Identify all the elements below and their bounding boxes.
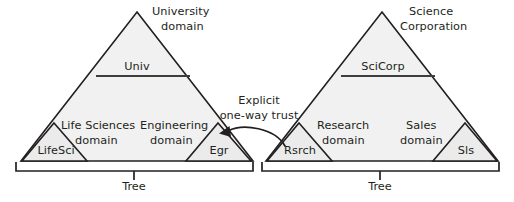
lifesci-domain-label-line2: domain	[75, 134, 118, 149]
lifesci-short-name-label: LifeSci	[37, 144, 74, 159]
science-corporation-label-line1: Science	[409, 5, 453, 20]
sls-short-name-label: Sls	[458, 144, 474, 159]
university-domain-label-line2: domain	[161, 20, 204, 35]
engineering-domain-label-line1: Engineering	[140, 119, 208, 134]
scicorp-short-name-label: SciCorp	[361, 60, 405, 75]
sales-domain-label-line1: Sales	[406, 119, 436, 134]
rsrch-short-name-label: Rsrch	[284, 144, 316, 159]
engineering-domain-label-line2: domain	[150, 134, 193, 149]
egr-short-name-label: Egr	[209, 144, 228, 159]
univ-short-name-label: Univ	[124, 60, 149, 75]
explicit-trust-label-line1: Explicit	[238, 94, 279, 109]
right-tree-bracket	[262, 162, 499, 171]
right-tree-label: Tree	[368, 180, 392, 195]
research-domain-label-line2: domain	[322, 134, 365, 149]
research-domain-label-line1: Research	[317, 119, 369, 134]
domain-trust-diagram: University domain Univ Life Sciences dom…	[0, 0, 514, 202]
explicit-trust-label-line2: one-way trust	[220, 109, 299, 124]
lifesci-domain-label-line1: Life Sciences	[61, 119, 135, 134]
left-tree-label: Tree	[122, 180, 146, 195]
sales-domain-label-line2: domain	[400, 134, 443, 149]
left-tree-bracket	[16, 162, 253, 171]
science-corporation-label-line2: Corporation	[400, 20, 467, 35]
university-domain-label-line1: University	[152, 5, 210, 20]
